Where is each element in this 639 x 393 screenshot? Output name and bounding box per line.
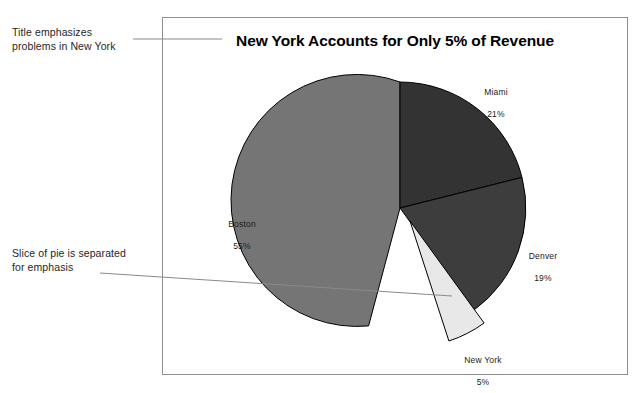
pie-label-denver-value: 19% <box>513 273 573 284</box>
annotation-slice-note: Slice of pie is separated for emphasis <box>12 246 162 274</box>
pie-label-boston-name: Boston <box>212 219 272 230</box>
pie-label-boston: Boston 55% <box>212 208 272 263</box>
annotation-title-note: Title emphasizes problems in New York <box>12 25 136 53</box>
pie-label-boston-value: 55% <box>212 241 272 252</box>
pie-label-miami-name: Miami <box>466 87 526 98</box>
pie-label-denver-name: Denver <box>513 251 573 262</box>
slide-canvas: Title emphasizes problems in New York Sl… <box>0 0 639 393</box>
pie-label-miami-value: 21% <box>466 109 526 120</box>
pie-label-new-york-name: New York <box>452 355 514 366</box>
pie-label-miami: Miami 21% <box>466 76 526 131</box>
pie-label-new-york: New York 5% <box>452 344 514 393</box>
pie-label-denver: Denver 19% <box>513 240 573 295</box>
chart-frame: New York Accounts for Only 5% of Revenue <box>162 17 628 375</box>
pie-label-new-york-value: 5% <box>452 377 514 388</box>
chart-title: New York Accounts for Only 5% of Revenue <box>163 32 627 50</box>
